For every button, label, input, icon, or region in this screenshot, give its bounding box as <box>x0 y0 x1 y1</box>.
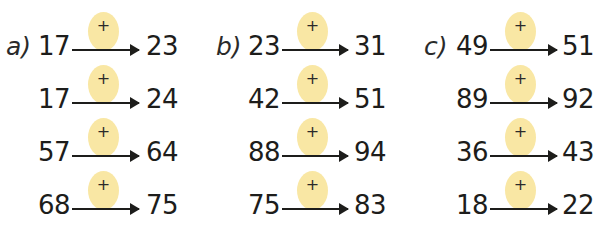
operator-bubble: + <box>505 12 536 51</box>
plus-icon: + <box>297 18 328 34</box>
arrow-right-icon <box>490 208 557 210</box>
start-number: 49 <box>448 33 488 59</box>
operator-bubble: + <box>297 12 328 51</box>
arrow-right-icon <box>282 102 348 104</box>
plus-icon: + <box>88 177 119 193</box>
plus-icon: + <box>88 71 119 87</box>
operator-bubble: + <box>88 12 119 51</box>
plus-icon: + <box>505 124 536 140</box>
operator-bubble: + <box>505 118 536 157</box>
arrowhead-icon <box>548 150 558 162</box>
arrowhead-icon <box>339 203 349 215</box>
start-number: 75 <box>240 192 280 218</box>
arrow-right-icon <box>282 49 348 51</box>
operator-bubble: + <box>88 118 119 157</box>
operator-bubble: + <box>88 171 119 210</box>
operator-bubble: + <box>88 65 119 104</box>
end-number: 64 <box>146 139 178 165</box>
end-number: 51 <box>354 86 386 112</box>
arrowhead-icon <box>130 97 140 109</box>
arrow-right-icon <box>282 208 348 210</box>
operator-bubble: + <box>297 171 328 210</box>
arrow-right-icon <box>490 102 557 104</box>
column-label: c) <box>424 34 448 59</box>
arrow-right-icon <box>72 155 139 157</box>
end-number: 94 <box>354 139 386 165</box>
end-number: 43 <box>562 139 594 165</box>
operator-bubble: + <box>505 65 536 104</box>
arrowhead-icon <box>548 203 558 215</box>
plus-icon: + <box>297 71 328 87</box>
start-number: 88 <box>240 139 280 165</box>
end-number: 83 <box>354 192 386 218</box>
plus-icon: + <box>297 124 328 140</box>
operator-bubble: + <box>297 65 328 104</box>
start-number: 36 <box>448 139 488 165</box>
plus-icon: + <box>88 124 119 140</box>
column-label: b) <box>216 34 242 59</box>
arrow-right-icon <box>72 49 139 51</box>
arrowhead-icon <box>130 150 140 162</box>
end-number: 51 <box>562 33 594 59</box>
start-number: 57 <box>30 139 70 165</box>
start-number: 89 <box>448 86 488 112</box>
plus-icon: + <box>505 177 536 193</box>
arrowhead-icon <box>548 44 558 56</box>
plus-icon: + <box>88 18 119 34</box>
end-number: 24 <box>146 86 178 112</box>
arrowhead-icon <box>339 44 349 56</box>
arrow-right-icon <box>72 208 139 210</box>
arrow-right-icon <box>490 49 557 51</box>
start-number: 18 <box>448 192 488 218</box>
plus-icon: + <box>505 71 536 87</box>
end-number: 75 <box>146 192 178 218</box>
arrow-right-icon <box>282 155 348 157</box>
plus-icon: + <box>505 18 536 34</box>
arrowhead-icon <box>339 97 349 109</box>
arrowhead-icon <box>130 44 140 56</box>
arrowhead-icon <box>339 150 349 162</box>
arrow-right-icon <box>72 102 139 104</box>
end-number: 92 <box>562 86 594 112</box>
start-number: 68 <box>30 192 70 218</box>
start-number: 17 <box>30 86 70 112</box>
arrow-right-icon <box>490 155 557 157</box>
arrowhead-icon <box>130 203 140 215</box>
arrowhead-icon <box>548 97 558 109</box>
start-number: 17 <box>30 33 70 59</box>
plus-icon: + <box>297 177 328 193</box>
column-label: a) <box>6 34 31 59</box>
start-number: 42 <box>240 86 280 112</box>
end-number: 31 <box>354 33 386 59</box>
start-number: 23 <box>240 33 280 59</box>
end-number: 22 <box>562 192 594 218</box>
operator-bubble: + <box>505 171 536 210</box>
end-number: 23 <box>146 33 178 59</box>
operator-bubble: + <box>297 118 328 157</box>
